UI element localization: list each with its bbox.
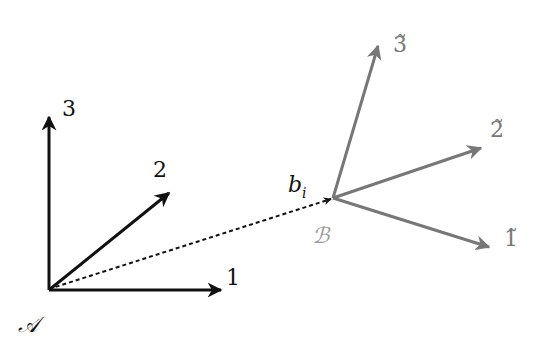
frame-a-axis-3-label: 3	[62, 96, 76, 121]
frame-b-axis-1-arrow	[333, 198, 489, 247]
frame-a-axis-1-label: 1	[226, 265, 240, 290]
diagram-svg: 1 2 3 𝒜 1̃ 2̃ 3̃ ℬ b i	[0, 0, 545, 341]
frame-a-origin-label: 𝒜	[18, 312, 45, 337]
frame-b-axis-2-arrow	[333, 148, 481, 198]
frame-transform-diagram: 1 2 3 𝒜 1̃ 2̃ 3̃ ℬ b i	[0, 0, 545, 341]
frame-b-axis-3-arrow	[333, 46, 378, 198]
frame-b-axis-1-label: 1̃	[504, 226, 518, 251]
frame-a-axis-2-label: 2	[153, 157, 167, 182]
frame-b-axis-2-label: 2̃	[490, 117, 504, 142]
connector-label-subscript: i	[302, 185, 306, 201]
frame-b-axis-3-label: 3̃	[393, 32, 407, 57]
frame-a-axis-2-arrow	[49, 193, 169, 290]
frame-b-origin-label: ℬ	[312, 223, 331, 248]
connector-label: b	[288, 172, 302, 197]
connector-b-i-line	[49, 199, 331, 289]
